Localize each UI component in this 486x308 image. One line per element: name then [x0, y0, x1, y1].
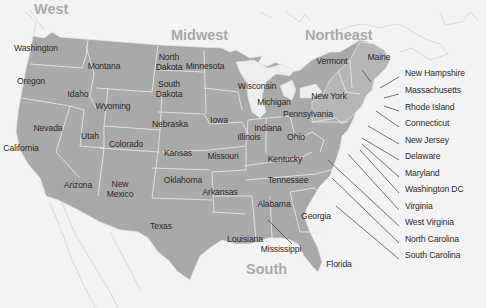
- callout-label-rhode-island: Rhode Island: [405, 103, 454, 113]
- callout-label-west-virginia: West Virginia: [405, 218, 454, 228]
- state-label-indiana: Indiana: [254, 124, 282, 134]
- region-label-south: South: [246, 261, 287, 277]
- state-label-texas: Texas: [150, 222, 172, 232]
- state-label-missouri: Missouri: [207, 152, 238, 162]
- callout-label-washington-dc: Washington DC: [405, 185, 464, 195]
- state-label-wisconsin: Wisconsin: [238, 82, 276, 92]
- state-label-georgia: Georgia: [301, 212, 331, 222]
- state-label-arizona: Arizona: [64, 181, 92, 191]
- state-label-oklahoma: Oklahoma: [164, 176, 202, 186]
- state-label-wyoming: Wyoming: [95, 102, 130, 112]
- state-label-maine: Maine: [368, 53, 391, 63]
- state-label-kentucky: Kentucky: [268, 155, 303, 165]
- state-label-mississippi: Mississippi: [261, 245, 301, 255]
- state-label-tennessee: Tennessee: [268, 176, 309, 186]
- callout-label-connecticut: Connecticut: [405, 119, 449, 129]
- callout-label-massachusetts: Massachusetts: [405, 86, 461, 96]
- state-label-louisiana: Louisiana: [227, 235, 263, 245]
- us-regions-map: WestMidwestNortheastSouth WashingtonOreg…: [0, 0, 486, 308]
- state-label-kansas: Kansas: [164, 149, 192, 159]
- state-label-idaho: Idaho: [67, 90, 88, 100]
- state-label-new-york: New York: [311, 92, 347, 102]
- region-label-midwest: Midwest: [171, 27, 228, 43]
- state-label-nevada: Nevada: [33, 124, 62, 134]
- callout-label-virginia: Virginia: [405, 202, 433, 212]
- state-label-michigan: Michigan: [257, 98, 291, 108]
- state-label-california: California: [3, 144, 38, 154]
- state-label-vermont: Vermont: [316, 57, 347, 67]
- state-label-new-mexico: NewMexico: [107, 180, 134, 199]
- callout-label-delaware: Delaware: [405, 152, 441, 162]
- callout-label-new-jersey: New Jersey: [405, 136, 449, 146]
- state-label-arkansas: Arkansas: [202, 188, 237, 198]
- state-label-ohio: Ohio: [287, 133, 305, 143]
- state-label-south-dakota: SouthDakota: [156, 80, 183, 99]
- region-label-northeast: Northeast: [305, 27, 373, 43]
- state-label-oregon: Oregon: [17, 77, 45, 87]
- state-label-nebraska: Nebraska: [152, 120, 188, 130]
- callout-label-maryland: Maryland: [405, 169, 440, 179]
- state-label-utah: Utah: [81, 132, 99, 142]
- state-label-washington: Washington: [14, 44, 58, 54]
- state-label-pennsylvania: Pennsylvania: [283, 110, 333, 120]
- callout-label-north-carolina: North Carolina: [405, 235, 459, 245]
- region-label-west: West: [34, 1, 68, 17]
- callout-label-south-carolina: South Carolina: [405, 251, 460, 261]
- callout-label-new-hampshire: New Hampshire: [405, 69, 465, 79]
- state-label-illinois: Illinois: [237, 133, 260, 143]
- state-label-north-dakota: NorthDakota: [156, 53, 183, 72]
- state-label-montana: Montana: [88, 62, 121, 72]
- state-label-alabama: Alabama: [257, 200, 290, 210]
- state-label-colorado: Colorado: [109, 140, 143, 150]
- state-label-iowa: Iowa: [210, 116, 228, 126]
- state-label-florida: Florida: [326, 260, 352, 270]
- state-label-minnesota: Minnesota: [186, 62, 225, 72]
